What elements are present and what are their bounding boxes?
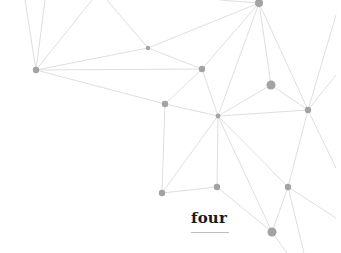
network-edge (148, 3, 259, 48)
network-graph-icon (0, 0, 341, 253)
network-node-icon (33, 67, 39, 73)
network-edge (259, 3, 308, 110)
network-edge (220, 0, 259, 3)
network-edge (148, 48, 202, 69)
network-nodes (33, 0, 311, 237)
network-node-icon (267, 81, 276, 90)
network-edge (165, 69, 202, 104)
network-edge (36, 0, 92, 70)
network-edge (36, 70, 165, 104)
network-edge (218, 116, 288, 187)
network-node-icon (159, 190, 165, 196)
caption-text: four (191, 209, 227, 227)
network-node-icon (268, 228, 277, 237)
network-edge (272, 187, 288, 232)
network-edges (25, 0, 336, 253)
network-node-icon (146, 46, 150, 50)
caption-underline (191, 232, 229, 233)
network-edge (162, 116, 218, 193)
network-illustration: four (0, 0, 341, 253)
network-edge (25, 0, 36, 70)
network-node-icon (285, 184, 291, 190)
network-node-icon (214, 184, 220, 190)
network-edge (162, 104, 165, 193)
network-edge (217, 116, 218, 187)
network-edge (202, 3, 259, 69)
network-edge (308, 15, 336, 110)
network-edge (36, 0, 45, 70)
network-edge (162, 187, 217, 193)
network-node-icon (216, 114, 221, 119)
network-edge (107, 0, 148, 48)
network-edge (308, 110, 336, 168)
network-edge (218, 85, 271, 116)
network-edge (218, 110, 308, 116)
network-edge (288, 187, 336, 218)
network-edge (36, 69, 202, 70)
network-edge (218, 3, 259, 116)
network-node-icon (305, 107, 311, 113)
network-node-icon (162, 101, 168, 107)
network-edge (288, 110, 308, 187)
network-edge (36, 48, 148, 70)
network-edge (288, 187, 304, 253)
network-edge (308, 75, 336, 110)
network-node-icon (199, 66, 205, 72)
network-edge (202, 69, 218, 116)
network-edge (165, 104, 218, 116)
